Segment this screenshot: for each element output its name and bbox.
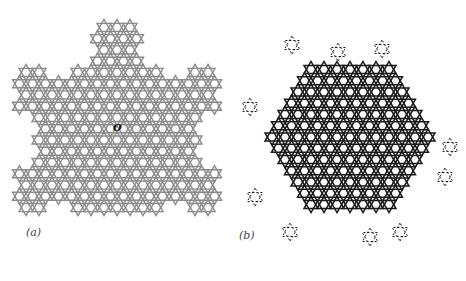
hexagram-cell <box>330 43 346 57</box>
hexagram-cell <box>284 36 300 50</box>
hexagram-cell <box>19 64 33 76</box>
hexagram-cell <box>330 61 344 73</box>
origin-marker: O <box>113 122 122 133</box>
hexagram-cell <box>149 64 163 76</box>
hexagram-cell <box>188 204 202 216</box>
hexagram-cell <box>247 188 263 202</box>
hexagram-cell <box>284 41 300 55</box>
kagome-hexagon-tiling <box>233 0 466 281</box>
hexagram-cell <box>71 204 85 216</box>
hexagram-cell <box>201 204 215 216</box>
panel-b <box>233 0 466 281</box>
hexagram-cell <box>110 204 124 216</box>
hexagram-cell <box>392 228 408 242</box>
hexagram-cell <box>97 19 111 31</box>
hexagram-cell <box>242 98 258 112</box>
hexagram-cell <box>32 204 46 216</box>
hexagram-cell <box>242 103 258 117</box>
hexagram-cell <box>442 143 458 157</box>
hexagram-cell <box>369 61 383 73</box>
hexagram-cell <box>343 201 357 213</box>
hexagram-cell <box>13 102 27 114</box>
panel-b-label: (b) <box>239 229 255 242</box>
hexagram-cell <box>97 204 111 216</box>
hexagram-cell <box>208 102 222 114</box>
hexagram-cell <box>123 19 137 31</box>
hexagram-cell <box>442 138 458 152</box>
hexagram-cell <box>330 201 344 213</box>
hexagram-cell <box>19 204 33 216</box>
hexagram-cell <box>437 173 453 187</box>
panel-a-label: (a) <box>26 226 41 239</box>
hexagram-cell <box>201 64 215 76</box>
hexagram-cell <box>362 233 378 247</box>
hexagram-cell <box>136 204 150 216</box>
hexagram-cell <box>169 76 183 88</box>
hexagram-cell <box>84 204 98 216</box>
hexagram-cell <box>343 61 357 73</box>
hexagram-cell <box>282 223 298 237</box>
hexagram-cell <box>374 40 390 54</box>
hexagram-cell <box>304 61 318 73</box>
hexagram-cell <box>437 168 453 182</box>
hexagram-cell <box>52 192 66 204</box>
hexagram-cell <box>317 61 331 73</box>
hexagram-cell <box>123 204 137 216</box>
hexagram-cell <box>247 193 263 207</box>
hexagram-cell <box>392 223 408 237</box>
hexagram-cell <box>169 192 183 204</box>
hexagram-cell <box>13 166 27 178</box>
hexagram-cell <box>149 204 163 216</box>
hexagram-cell <box>356 61 370 73</box>
hexagram-cell <box>382 61 396 73</box>
hexagram-cell <box>317 201 331 213</box>
hexagram-cell <box>32 64 46 76</box>
hexagram-cell <box>369 201 383 213</box>
hexagram-cell <box>356 201 370 213</box>
hexagram-cell <box>71 64 85 76</box>
hexagram-cell <box>382 201 396 213</box>
hexagram-cell <box>52 76 66 88</box>
hexagram-cell <box>208 166 222 178</box>
hexagram-cell <box>304 201 318 213</box>
hexagram-cell <box>362 228 378 242</box>
hexagram-cell <box>330 48 346 62</box>
hexagram-cell <box>374 45 390 59</box>
hexagram-cell <box>282 228 298 242</box>
hexagram-cell <box>188 64 202 76</box>
hexagram-cell <box>110 19 124 31</box>
